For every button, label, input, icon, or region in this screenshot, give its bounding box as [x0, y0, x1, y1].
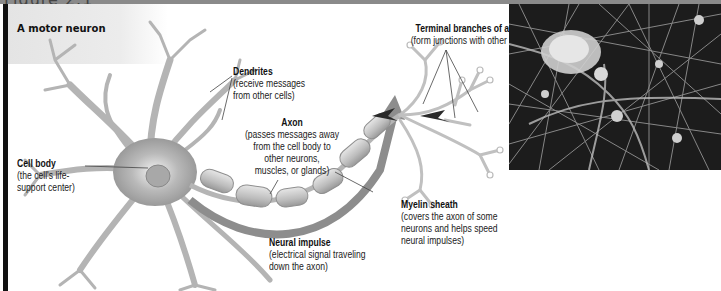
neural-impulse-title: Neural impulse [269, 237, 366, 249]
cell-body-desc-1: (the cell's life- [17, 170, 75, 182]
myelin-sheath-label: Myelin sheath (covers the axon of some n… [401, 199, 498, 247]
axon-desc-3: other neurons, [240, 153, 343, 165]
neuron-network-image [509, 4, 721, 170]
axon-title: Axon [240, 117, 343, 129]
neuron-micrograph-photo [509, 4, 721, 170]
cell-body-title: Cell body [17, 158, 75, 170]
panel-title: A motor neuron [17, 23, 106, 34]
myelin-sheath-title: Myelin sheath [401, 199, 498, 211]
cell-body-label: Cell body (the cell's life- support cent… [17, 158, 75, 194]
nucleus-icon [146, 165, 170, 187]
dendrites-title: Dendrites [233, 66, 305, 78]
terminal-branches-icon [400, 42, 500, 205]
axon-desc-1: (passes messages away [240, 129, 343, 141]
neural-impulse-label: Neural impulse (electrical signal travel… [269, 237, 366, 273]
cell-body-desc-2: support center) [17, 182, 75, 194]
dendrites-desc-1: (receive messages [233, 78, 305, 90]
neural-impulse-desc-2: down the axon) [269, 261, 366, 273]
myelin-sheath-desc-1: (covers the axon of some [401, 211, 498, 223]
dendrites-desc-2: from other cells) [233, 90, 305, 102]
axon-desc-2: from the cell body to [240, 141, 343, 153]
neural-impulse-desc-1: (electrical signal traveling [269, 249, 366, 261]
myelin-sheath-desc-3: neural impulses) [401, 235, 498, 247]
axon-label: Axon (passes messages away from the cell… [240, 117, 343, 177]
dendrites-label: Dendrites (receive messages from other c… [233, 66, 305, 102]
axon-desc-4: muscles, or glands) [240, 165, 343, 177]
myelin-sheath-desc-2: neurons and helps speed [401, 223, 498, 235]
